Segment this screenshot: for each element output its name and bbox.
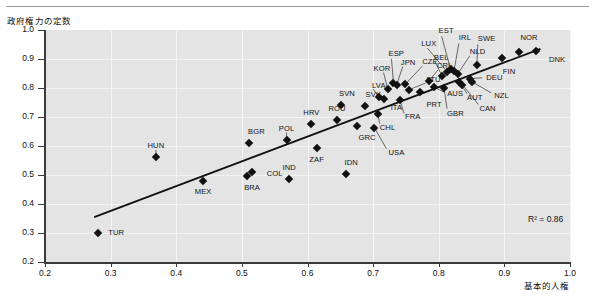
x-axis-tick <box>570 262 571 267</box>
data-point-label: POL <box>279 124 295 133</box>
y-axis-tick-label: 0.4 <box>4 198 34 208</box>
data-point-label: DEU <box>486 73 502 82</box>
data-point-label: COL <box>267 169 283 178</box>
data-point-label: HUN <box>148 141 165 150</box>
data-point-label: BEL <box>434 53 449 62</box>
y-axis-tick-label: 0.9 <box>4 53 34 63</box>
data-point-label: PRT <box>426 100 441 109</box>
chart-figure: 政府権力の定数 基本的人権 0.20.30.40.50.60.70.80.91.… <box>0 0 595 299</box>
gridline-horizontal <box>45 88 570 89</box>
y-axis-tick <box>38 204 44 205</box>
y-axis-tick-label: 0.2 <box>4 256 34 266</box>
data-point-label: LUX <box>421 39 436 48</box>
data-point-label: FIN <box>503 67 516 76</box>
r-squared-annotation: R² = 0.86 <box>528 214 563 224</box>
gridline-horizontal <box>45 204 570 205</box>
y-axis-tick-label: 0.6 <box>4 140 34 150</box>
gridline-horizontal <box>45 175 570 176</box>
x-axis-tick-label: 0.6 <box>288 268 328 278</box>
x-axis-tick-label: 1.0 <box>550 268 590 278</box>
data-point-label: BGR <box>248 127 265 136</box>
data-point-label: GBR <box>447 109 464 118</box>
data-point-label: CHL <box>380 123 396 132</box>
x-axis-tick-label: 0.3 <box>91 268 131 278</box>
x-axis-tick-label: 0.7 <box>353 268 393 278</box>
x-axis-tick-label: 0.5 <box>222 268 262 278</box>
x-axis-tick <box>242 262 243 267</box>
x-axis-tick-label: 0.8 <box>419 268 459 278</box>
x-axis-tick-label: 0.9 <box>484 268 524 278</box>
y-axis-spine <box>44 30 46 263</box>
x-axis-tick <box>308 262 309 267</box>
x-axis-tick <box>45 262 46 267</box>
x-axis-tick <box>111 262 112 267</box>
data-point-label: ESP <box>388 49 404 58</box>
data-point-label: HRV <box>303 108 319 117</box>
data-point-label: MEX <box>195 187 212 196</box>
data-point-label: GRC <box>358 133 375 142</box>
x-axis-title: 基本的人権 <box>524 279 569 291</box>
data-point-label: JPN <box>401 58 416 67</box>
y-axis-tick-label: 0.8 <box>4 82 34 92</box>
y-axis-tick <box>38 117 44 118</box>
data-point-label: TUR <box>108 228 124 237</box>
data-point-label: CAN <box>479 104 495 113</box>
data-point-label: NOR <box>520 33 537 42</box>
data-point-label: DNK <box>549 55 565 64</box>
x-axis-tick-label: 0.4 <box>156 268 196 278</box>
figure-top-rule <box>6 6 589 7</box>
y-axis-tick-label: 0.5 <box>4 169 34 179</box>
y-axis-tick <box>38 30 44 31</box>
x-axis-tick <box>176 262 177 267</box>
y-axis-tick <box>38 59 44 60</box>
data-point-label: SVN <box>339 89 355 98</box>
y-axis-tick-label: 0.7 <box>4 111 34 121</box>
x-axis-tick-label: 0.2 <box>25 268 65 278</box>
y-axis-tick-label: 0.3 <box>4 227 34 237</box>
data-point-label: IND <box>282 163 295 172</box>
gridline-horizontal <box>45 59 570 60</box>
gridline-horizontal <box>45 146 570 147</box>
data-point-label: ITA <box>391 103 403 112</box>
x-axis-tick <box>439 262 440 267</box>
y-axis-tick <box>38 175 44 176</box>
data-point-label: IRL <box>459 33 471 42</box>
data-point-label: AUS <box>447 89 463 98</box>
y-axis-tick <box>38 146 44 147</box>
x-axis-tick <box>373 262 374 267</box>
data-point-label: IDN <box>345 158 358 167</box>
y-axis-tick <box>38 233 44 234</box>
data-point-label: USA <box>388 148 404 157</box>
y-axis-tick-label: 1.0 <box>4 24 34 34</box>
data-point-label: NLD <box>470 47 486 56</box>
gridline-vertical <box>570 30 571 262</box>
data-point-label: ZAF <box>309 155 324 164</box>
x-axis-tick <box>504 262 505 267</box>
data-point-label: KOR <box>374 64 391 73</box>
data-point-label: SWE <box>478 34 496 43</box>
y-axis-tick <box>38 262 44 263</box>
data-point-label: FRA <box>405 112 421 121</box>
data-point-label: NZL <box>494 91 509 100</box>
data-point-label: EST <box>439 26 454 35</box>
data-point-label: BRA <box>244 183 260 192</box>
data-point-label: AUT <box>467 93 483 102</box>
y-axis-tick <box>38 88 44 89</box>
